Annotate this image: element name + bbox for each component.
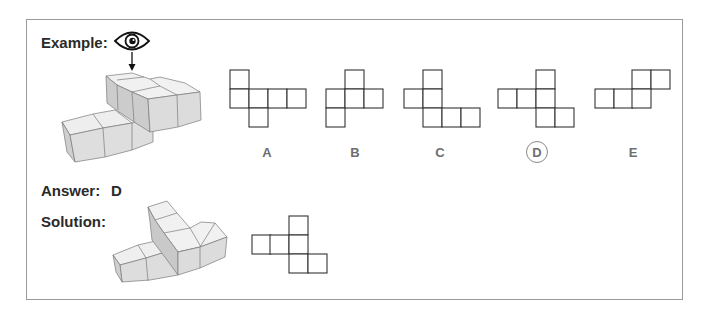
solution-net bbox=[0, 0, 709, 320]
